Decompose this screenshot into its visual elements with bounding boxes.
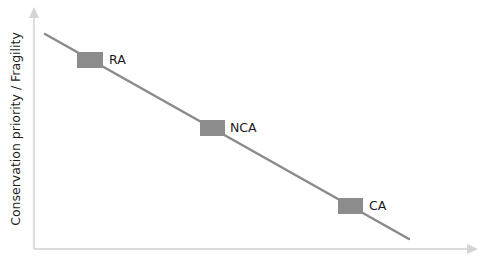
y-axis-arrow-icon (29, 7, 39, 18)
marker-nca (200, 120, 225, 136)
point-label-nca: NCA (230, 122, 257, 135)
x-axis-arrow-icon (467, 244, 478, 254)
point-label-ra: RA (109, 54, 126, 67)
y-axis-label: Conservation priority / Fragility (8, 32, 23, 226)
marker-ca (338, 198, 363, 214)
point-label-ca: CA (369, 200, 386, 213)
marker-ra (77, 52, 103, 68)
